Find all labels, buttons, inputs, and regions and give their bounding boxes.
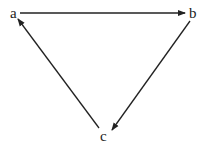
edge-b-to-c: [112, 21, 190, 130]
node-a-label: a: [10, 5, 17, 21]
node-b-label: b: [189, 5, 197, 21]
node-c-label: c: [100, 128, 107, 144]
graph-canvas: a b c: [0, 0, 206, 148]
edge-c-to-a: [18, 19, 99, 128]
